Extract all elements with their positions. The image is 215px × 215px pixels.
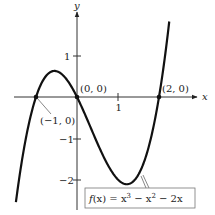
label-point-2: (2, 0) [162, 83, 189, 94]
point-neg1-0 [34, 95, 39, 100]
x-axis-label: x [202, 91, 208, 102]
function-curve [16, 22, 169, 203]
y-tick-label-neg1: −1 [59, 134, 74, 145]
point-0-0 [75, 95, 80, 100]
leader-neg1 [37, 98, 51, 114]
label-point-0: (0, 0) [80, 83, 107, 94]
point-2-0 [157, 95, 162, 100]
leader-function [141, 176, 146, 188]
function-label: f(x) = x3 − x2 − 2x [88, 192, 183, 204]
leader-function-2 [143, 175, 149, 188]
label-point-neg1: (−1, 0) [40, 115, 75, 126]
y-tick-label-neg2: −2 [59, 175, 74, 186]
x-tick-label-1: 1 [116, 102, 122, 113]
function-graph: x y 1 1 −1 −2 (−1, 0) (0, 0) (2, 0) f(x)… [0, 0, 215, 215]
y-axis-label: y [73, 0, 80, 11]
y-tick-label-1: 1 [64, 51, 70, 62]
